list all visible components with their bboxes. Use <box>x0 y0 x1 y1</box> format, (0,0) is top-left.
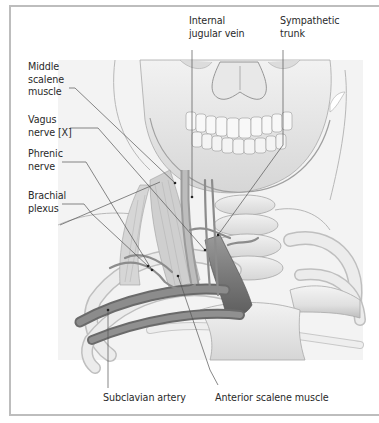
label-brachial-plexus: Brachial plexus <box>28 190 66 215</box>
label-vagus-nerve: Vagus nerve [X] <box>28 114 72 139</box>
label-middle-scalene-muscle: Middle scalene muscle <box>28 61 64 99</box>
label-phrenic-nerve: Phrenic nerve <box>28 148 63 173</box>
label-sympathetic-trunk: Sympathetic trunk <box>280 15 339 40</box>
label-internal-jugular-vein: Internal jugular vein <box>189 15 245 40</box>
label-anterior-scalene-muscle: Anterior scalene muscle <box>215 392 329 405</box>
label-subclavian-artery: Subclavian artery <box>103 392 186 405</box>
